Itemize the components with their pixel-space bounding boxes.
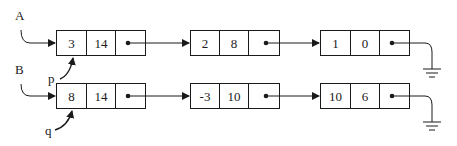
a2-exp: 8 [220, 31, 248, 56]
a1-exp: 14 [87, 31, 115, 56]
pointer-q-arrow [55, 111, 72, 130]
head-label-b: B [15, 63, 24, 76]
head-label-a: A [15, 9, 24, 22]
b2-coef: -3 [191, 84, 219, 109]
a3-exp: 0 [351, 31, 379, 56]
a3-coef: 1 [321, 31, 350, 56]
pointer-label-q: q [45, 124, 52, 137]
b2-exp: 10 [220, 84, 248, 109]
b1-exp: 14 [87, 84, 115, 109]
b3-coef: 10 [321, 84, 350, 109]
pointer-label-p: p [48, 72, 55, 85]
a2-coef: 2 [191, 31, 219, 56]
head-a-arrow [21, 30, 55, 43]
pointer-p-arrow [60, 58, 73, 79]
b1-coef: 8 [57, 84, 86, 109]
diagram-lines [0, 0, 457, 146]
linked-list-diagram: A B p q 3 14 2 8 1 0 8 14 -3 10 10 6 [0, 0, 457, 146]
a1-coef: 3 [57, 31, 86, 56]
b3-exp: 6 [351, 84, 379, 109]
